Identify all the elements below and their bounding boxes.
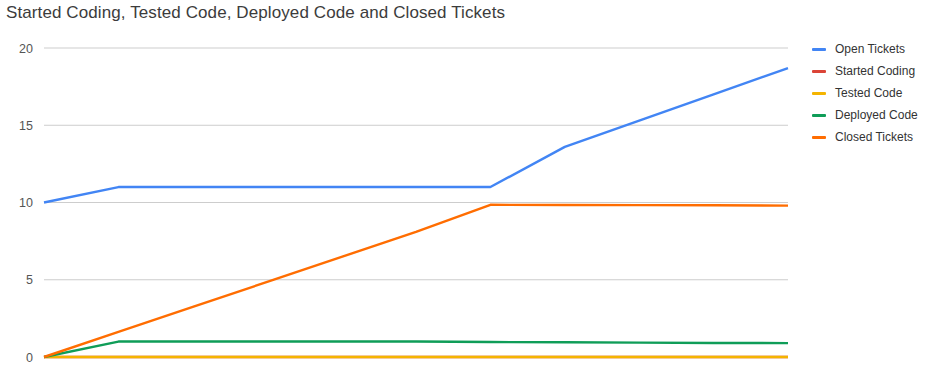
legend-item-label: Open Tickets [835, 43, 905, 55]
y-axis-tick-label: 10 [19, 196, 33, 210]
legend-swatch-icon [812, 70, 826, 73]
legend-swatch-icon [812, 48, 826, 51]
chart-legend: Open TicketsStarted CodingTested CodeDep… [812, 38, 924, 148]
legend-swatch-icon [812, 136, 826, 139]
plot-area: 05101520 [0, 0, 927, 366]
legend-item-label: Closed Tickets [835, 131, 913, 143]
legend-swatch-icon [812, 114, 826, 117]
series-line-closed-tickets [44, 205, 788, 357]
legend-item-label: Started Coding [835, 65, 915, 77]
series-lines [44, 68, 788, 357]
gridlines [44, 48, 788, 357]
legend-item-started-coding[interactable]: Started Coding [812, 60, 924, 82]
series-line-deployed-code [44, 342, 788, 357]
legend-item-label: Deployed Code [835, 109, 918, 121]
line-chart: Started Coding, Tested Code, Deployed Co… [0, 0, 927, 366]
y-axis-tick-label: 20 [19, 42, 33, 56]
y-axis-tick-label: 5 [26, 273, 33, 287]
y-axis-tick-labels: 05101520 [19, 42, 33, 365]
legend-swatch-icon [812, 92, 826, 95]
y-axis-tick-label: 0 [26, 351, 33, 365]
legend-item-tested-code[interactable]: Tested Code [812, 82, 924, 104]
legend-item-label: Tested Code [835, 87, 902, 99]
legend-item-open-tickets[interactable]: Open Tickets [812, 38, 924, 60]
y-axis-tick-label: 15 [19, 119, 33, 133]
legend-item-deployed-code[interactable]: Deployed Code [812, 104, 924, 126]
legend-item-closed-tickets[interactable]: Closed Tickets [812, 126, 924, 148]
series-line-open-tickets [44, 68, 788, 202]
